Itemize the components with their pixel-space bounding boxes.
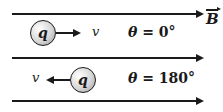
vector-arrow-icon: [206, 9, 218, 11]
velocity-label-case2: v: [32, 70, 39, 85]
angle-label-case1: θ = 0°: [128, 24, 176, 40]
angle-label-case2: θ = 180°: [128, 70, 195, 86]
velocity-arrow-case1: [56, 32, 74, 34]
field-line-bottom-arrowhead: [196, 97, 204, 105]
theta-symbol: θ: [128, 70, 137, 86]
field-line-bottom: [12, 100, 198, 102]
field-line-top-arrowhead: [196, 10, 204, 18]
velocity-arrowhead-case1: [73, 29, 81, 37]
charge-q-case1: q: [30, 20, 56, 46]
field-line-middle-arrowhead: [196, 54, 204, 62]
theta-symbol: θ: [128, 24, 137, 40]
field-line-top: [12, 13, 198, 15]
charge-label: q: [38, 25, 48, 41]
magnetic-field-label: B: [206, 10, 219, 28]
charge-label: q: [78, 72, 88, 88]
velocity-arrow-case2: [52, 79, 70, 81]
field-symbol: B: [206, 10, 219, 28]
charge-q-case2: q: [70, 67, 96, 93]
velocity-label-case1: v: [92, 24, 99, 39]
angle-value: = 0°: [142, 24, 175, 40]
field-line-middle: [12, 57, 198, 59]
angle-value: = 180°: [142, 70, 195, 86]
